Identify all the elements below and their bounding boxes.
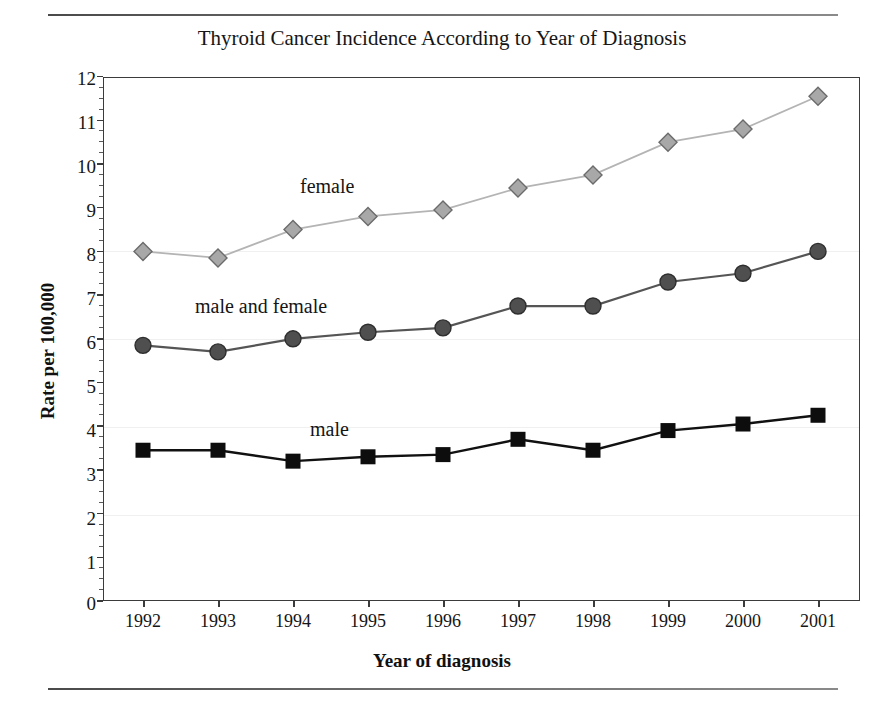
y-axis-tick-minor	[99, 98, 103, 99]
y-axis-tick-major	[97, 338, 103, 340]
data-point-marker	[809, 87, 827, 105]
x-axis-tick	[443, 601, 445, 607]
y-axis-tick-minor	[99, 152, 103, 153]
series-annotation-male-and-female: male and female	[195, 295, 327, 318]
data-point-marker	[810, 243, 826, 259]
x-axis-tick	[143, 601, 145, 607]
y-axis-tick-minor	[99, 502, 103, 503]
data-point-marker	[136, 443, 151, 458]
data-point-marker	[435, 320, 451, 336]
data-point-marker	[284, 221, 302, 239]
data-point-marker	[361, 449, 376, 464]
x-axis-tick	[368, 601, 370, 607]
y-axis-tick-major	[97, 251, 103, 253]
y-axis-tick-minor	[99, 349, 103, 350]
x-axis-tick	[518, 601, 520, 607]
y-axis-tick-major	[97, 294, 103, 296]
series-line	[143, 96, 818, 258]
y-axis-tick-major	[97, 207, 103, 209]
data-point-marker	[359, 207, 377, 225]
y-axis-tick-major	[97, 600, 103, 602]
data-point-marker	[811, 408, 826, 423]
y-axis-tick-minor	[99, 393, 103, 394]
y-axis-tick-minor	[99, 567, 103, 568]
y-axis-tick-minor	[99, 480, 103, 481]
y-axis-tick-minor	[99, 262, 103, 263]
x-axis-tick	[593, 601, 595, 607]
chart-plot-area: 12 11 10 9 8 7 6 5 4 3 2 1 0 Rate per 10…	[0, 0, 884, 706]
y-axis-tick-minor	[99, 436, 103, 437]
y-axis-tick-major	[97, 513, 103, 515]
data-point-marker	[511, 432, 526, 447]
y-axis-tick-minor	[99, 130, 103, 131]
y-axis-tick-major	[97, 120, 103, 122]
y-axis-tick-minor	[99, 404, 103, 405]
data-point-marker	[436, 447, 451, 462]
y-axis-tick-minor	[99, 458, 103, 459]
data-point-marker	[135, 337, 151, 353]
x-axis-tick	[668, 601, 670, 607]
y-axis-tick-minor	[99, 283, 103, 284]
y-axis-tick-major	[97, 76, 103, 78]
figure-page: Thyroid Cancer Incidence According to Ye…	[0, 0, 884, 706]
y-axis-tick-minor	[99, 185, 103, 186]
series-female	[134, 87, 827, 267]
data-point-marker	[510, 298, 526, 314]
y-axis-tick-minor	[99, 109, 103, 110]
series-annotation-male: male	[310, 418, 349, 441]
data-point-marker	[660, 274, 676, 290]
data-point-marker	[736, 417, 751, 432]
data-point-marker	[735, 265, 751, 281]
y-axis-tick-major	[97, 469, 103, 471]
y-axis-tick-major	[97, 163, 103, 165]
bottom-divider-rule	[48, 688, 838, 690]
data-point-marker	[134, 242, 152, 260]
series-annotation-female: female	[300, 175, 354, 198]
data-point-marker	[584, 166, 602, 184]
y-axis-tick-major	[97, 382, 103, 384]
y-axis-tick-minor	[99, 524, 103, 525]
y-axis-tick-minor	[99, 272, 103, 273]
y-axis-tick-minor	[99, 546, 103, 547]
y-axis-tick-minor	[99, 535, 103, 536]
y-axis-tick-minor	[99, 447, 103, 448]
data-point-marker	[659, 133, 677, 151]
data-point-marker	[286, 454, 301, 469]
x-axis-tick	[218, 601, 220, 607]
series-male	[136, 408, 826, 469]
data-point-marker	[211, 443, 226, 458]
y-axis-tick-major	[97, 425, 103, 427]
y-axis-tick-minor	[99, 327, 103, 328]
y-axis-tick-minor	[99, 229, 103, 230]
series-layer	[0, 0, 884, 706]
y-axis-tick-minor	[99, 87, 103, 88]
y-axis-tick-minor	[99, 578, 103, 579]
data-point-marker	[285, 331, 301, 347]
y-axis-tick-minor	[99, 414, 103, 415]
data-point-marker	[360, 324, 376, 340]
x-axis-tick	[818, 601, 820, 607]
y-axis-tick-minor	[99, 316, 103, 317]
series-line	[143, 415, 818, 461]
cut-off-caption	[48, 697, 848, 706]
y-axis-tick-minor	[99, 589, 103, 590]
y-axis-tick-minor	[99, 491, 103, 492]
y-axis-tick-minor	[99, 305, 103, 306]
data-point-marker	[434, 201, 452, 219]
y-axis-tick-minor	[99, 360, 103, 361]
data-point-marker	[585, 298, 601, 314]
y-axis-tick-minor	[99, 196, 103, 197]
data-point-marker	[586, 443, 601, 458]
data-point-marker	[509, 179, 527, 197]
data-point-marker	[210, 344, 226, 360]
x-axis-tick	[743, 601, 745, 607]
data-point-marker	[661, 423, 676, 438]
y-axis-tick-minor	[99, 371, 103, 372]
data-point-marker	[209, 249, 227, 267]
data-point-marker	[734, 120, 752, 138]
y-axis-tick-major	[97, 557, 103, 559]
y-axis-tick-minor	[99, 240, 103, 241]
x-axis-tick	[293, 601, 295, 607]
y-axis-tick-minor	[99, 174, 103, 175]
y-axis-tick-minor	[99, 141, 103, 142]
